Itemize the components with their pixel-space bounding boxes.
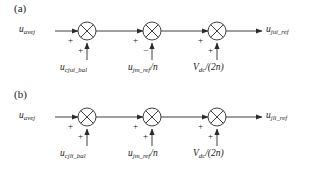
panel-b-output-label: ujli_ref <box>266 110 287 121</box>
panel-a-junction-1-bottom-sign: + <box>78 46 83 55</box>
panel-a-j3-suffix: /(2n) <box>205 62 223 72</box>
panel-a: (a) <box>0 0 310 86</box>
panel-a-output-label: ujui_ref <box>266 24 289 35</box>
panel-b-output-sub: jli_ref <box>271 114 287 121</box>
panel-a-output-sub: jui_ref <box>271 28 289 35</box>
panel-b-j3-sub: dc <box>199 152 205 159</box>
panel-b-junction-3-bottom-label: Vdc/(2n) <box>193 148 224 159</box>
panel-a-junction-2-bottom-sign: − <box>143 46 148 55</box>
panel-b-j2-sub: jm_ref <box>133 152 151 159</box>
panel-b-diagram <box>0 86 310 172</box>
panel-b-junction-1-left-sign: + <box>68 122 73 131</box>
panel-b-j2-suffix: /n <box>150 148 157 158</box>
figure-block-diagram: (a) <box>0 0 310 173</box>
panel-b-junction-3-left-sign: + <box>198 122 203 131</box>
panel-a-junction-1-bottom-label: ucjui_bal <box>60 62 87 73</box>
panel-a-junction-1-left-sign: + <box>68 36 73 45</box>
panel-a-input-sub: avej <box>24 28 35 35</box>
panel-b-junction-2-left-sign: + <box>133 122 138 131</box>
panel-b-junction-2-bottom-sign: + <box>143 132 148 141</box>
panel-a-junction-3-bottom-sign: + <box>208 46 213 55</box>
panel-b-j3-suffix: /(2n) <box>205 148 223 158</box>
panel-b-junction-3-bottom-sign: + <box>208 132 213 141</box>
panel-b: (b) <box>0 86 310 172</box>
panel-b-j3-base: V <box>193 148 199 158</box>
panel-a-junction-2-bottom-label: ujm_ref/n <box>128 62 158 73</box>
panel-b-input-label: uavej <box>19 110 35 121</box>
panel-b-junction-1-bottom-label: ucjli_bal <box>60 148 86 159</box>
panel-a-j3-base: V <box>193 62 199 72</box>
panel-a-j3-sub: dc <box>199 66 205 73</box>
panel-a-junction-3-bottom-label: Vdc/(2n) <box>193 62 224 73</box>
panel-a-j2-sub: jm_ref <box>133 66 151 73</box>
panel-b-j1-sub: cjli_bal <box>65 152 86 159</box>
panel-a-junction-2-left-sign: + <box>133 36 138 45</box>
panel-a-j1-sub: cjui_bal <box>65 66 87 73</box>
panel-a-input-label: uavej <box>19 24 35 35</box>
panel-a-j2-suffix: /n <box>150 62 157 72</box>
panel-b-junction-2-bottom-label: ujm_ref/n <box>128 148 158 159</box>
panel-b-junction-1-bottom-sign: + <box>78 132 83 141</box>
panel-a-diagram <box>0 0 310 86</box>
panel-b-input-sub: avej <box>24 114 35 121</box>
panel-a-junction-3-left-sign: + <box>198 36 203 45</box>
